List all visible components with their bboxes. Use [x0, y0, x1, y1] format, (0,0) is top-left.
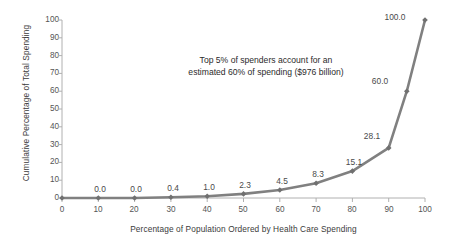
data-label: 4.5 [262, 176, 302, 186]
data-label: 0.0 [116, 184, 156, 194]
chart-figure: Cumulative Percentage of Total Spending … [0, 0, 450, 244]
data-label: 0.0 [80, 184, 120, 194]
data-label: 1.0 [189, 182, 229, 192]
data-label: 100.0 [375, 12, 415, 22]
data-label: 2.3 [225, 180, 265, 190]
chart-annotation: Top 5% of spenders account for an estima… [170, 55, 362, 78]
data-label: 28.1 [352, 131, 392, 141]
data-label: 60.0 [360, 76, 400, 86]
data-label: 15.1 [334, 157, 374, 167]
data-label: 0.4 [153, 183, 193, 193]
annotation-line-2: estimated 60% of spending ($976 billion) [170, 67, 362, 79]
y-axis-ticks [58, 20, 62, 198]
series-markers [59, 17, 428, 201]
data-label: 8.3 [298, 169, 338, 179]
annotation-line-1: Top 5% of spenders account for an [170, 55, 362, 67]
series-line [62, 20, 425, 198]
plot-area [0, 0, 450, 244]
